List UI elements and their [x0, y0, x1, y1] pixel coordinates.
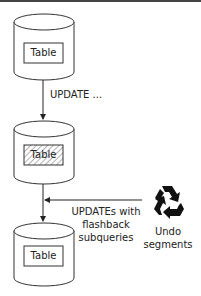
table-label-bottom: Table — [24, 246, 63, 266]
undo-label-line2: segments — [138, 238, 198, 251]
table-label-top: Table — [24, 43, 63, 63]
flashback-label-line3: subqueries — [66, 231, 146, 244]
flashback-label-line1: UPDATEs with — [66, 205, 146, 218]
recycle-icon — [154, 186, 184, 219]
update-label: UPDATE ... — [50, 88, 102, 101]
flashback-label-line2: flashback — [66, 218, 146, 231]
undo-label-line1: Undo — [138, 225, 198, 238]
table-label-middle: Table — [24, 145, 63, 165]
